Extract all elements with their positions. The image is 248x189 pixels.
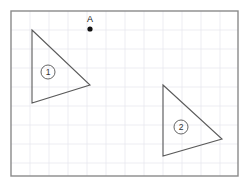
triangle-1-number-label: 1 bbox=[46, 67, 51, 77]
point-label-A: A bbox=[87, 14, 93, 24]
point-A: A bbox=[87, 14, 93, 32]
point-dot-A bbox=[87, 26, 92, 31]
figure-canvas: 12 A bbox=[0, 0, 248, 189]
geometry-figure: 12 A bbox=[0, 0, 248, 189]
canvas-background bbox=[0, 0, 248, 189]
triangle-2-number-label: 2 bbox=[179, 122, 184, 132]
labeled-points-layer: A bbox=[87, 14, 93, 32]
